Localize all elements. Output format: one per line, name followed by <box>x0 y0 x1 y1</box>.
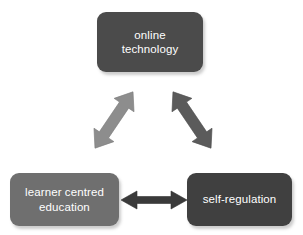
node-learner-centred-education-label: learner centred education <box>25 185 104 214</box>
arrow-online-technology-learner-centred-education <box>80 80 148 160</box>
node-online-technology-label: online technology <box>122 28 179 57</box>
node-online-technology[interactable]: online technology <box>97 12 203 72</box>
node-self-regulation-label: self-regulation <box>203 192 277 207</box>
node-self-regulation[interactable]: self-regulation <box>187 173 292 226</box>
arrow-learner-centred-education-self-regulation <box>118 186 190 214</box>
node-learner-centred-education[interactable]: learner centred education <box>10 173 119 226</box>
arrow-online-technology-self-regulation <box>158 80 226 160</box>
diagram-canvas: online technology learner centred educat… <box>0 0 303 235</box>
